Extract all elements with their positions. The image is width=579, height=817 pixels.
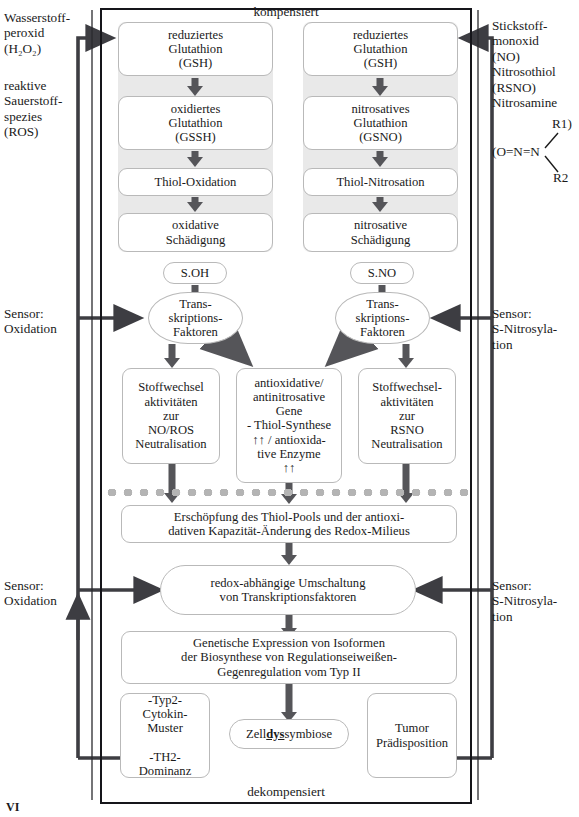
figure-corner-label: VI (6, 800, 19, 815)
chem-formula-body: (O=N=N (492, 144, 540, 159)
node-left-chain-4[interactable]: oxidative Schädigung (118, 213, 273, 252)
node-cytokin-pattern[interactable]: -Typ2- Cytokin- Muster -TH2- Dominanz (120, 693, 210, 778)
sensor-left-upper: Sensor: Oxidation (4, 306, 96, 337)
node-transcription-factors-right[interactable]: Trans- skriptions- Faktoren (335, 292, 430, 344)
sensor-left-lower: Sensor: Oxidation (4, 578, 96, 609)
node-transcription-factors-left[interactable]: Trans- skriptions- Faktoren (148, 292, 243, 344)
chem-formula-r1: R1) (552, 116, 572, 131)
node-cell-dyssymbiosis[interactable]: Zelldyssymbiose (229, 719, 349, 749)
node-antioxidative-genes[interactable]: antioxidative/ antinitrosative Gene - Th… (236, 368, 342, 483)
node-genetic-expression[interactable]: Genetische Expression von Isoformen der … (121, 631, 457, 684)
node-tumor-predisposition[interactable]: Tumor Prädisposition (367, 693, 457, 778)
chem-formula-r2: R2 (553, 170, 568, 185)
frame-bottom-caption: dekompensiert (100, 784, 472, 800)
node-s-oh-tag[interactable]: S.OH (163, 262, 227, 284)
node-right-chain-3[interactable]: Thiol-Nitrosation (303, 168, 458, 196)
node-activity-rsno[interactable]: Stoffwechsel- aktivitäten zur RSNO Neutr… (358, 368, 456, 464)
node-activity-no-ros[interactable]: Stoffwechsel aktivitäten zur NO/ROS Neut… (122, 368, 220, 464)
label-reactive-oxygen-species: reaktive Sauerstoff- spezies (ROS) (4, 78, 96, 140)
node-s-no-tag[interactable]: S.NO (350, 262, 414, 284)
node-right-chain-1[interactable]: reduziertes Glutathion (GSH) (303, 22, 458, 76)
node-redox-switch[interactable]: redox-abhängige Umschaltung von Transkri… (160, 565, 416, 615)
diagram-canvas: kompensiert dekompensiert VI Wasserstoff… (0, 0, 579, 817)
node-thiol-pool-depletion[interactable]: Erschöpfung des Thiol-Pools und der anti… (121, 505, 457, 543)
node-right-chain-2[interactable]: nitrosatives Glutathion (GSNO) (303, 96, 458, 150)
compensation-divider (104, 489, 468, 496)
dyssymbiose-prefix: Zell (246, 727, 266, 741)
label-nitrogen-compounds: Stickstoff- monoxid (NO) Nitrosothiol (R… (492, 18, 579, 110)
dyssymbiose-suffix: symbiose (284, 727, 332, 741)
label-hydrogen-peroxide: Wasserstoff- peroxid (H₂O₂) (4, 10, 96, 56)
node-left-chain-1[interactable]: reduziertes Glutathion (GSH) (118, 22, 273, 76)
node-left-chain-3[interactable]: Thiol-Oxidation (118, 168, 273, 196)
frame-top-caption: kompensiert (100, 4, 472, 20)
sensor-right-upper: Sensor: S-Nitrosyla- tion (492, 306, 578, 352)
node-left-chain-2[interactable]: oxidiertes Glutathion (GSSH) (118, 96, 273, 150)
dyssymbiose-emphasis: dys (266, 727, 284, 741)
node-right-chain-4[interactable]: nitrosative Schädigung (303, 213, 458, 252)
sensor-right-lower: Sensor: S-Nitrosyla- tion (492, 578, 578, 624)
